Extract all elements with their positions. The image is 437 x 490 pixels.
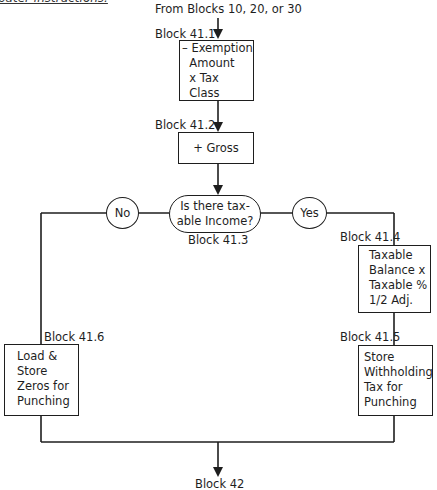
block-41-5-label: Block 41.5 xyxy=(340,331,400,344)
no-branch-connector: No xyxy=(106,197,139,229)
block-41-2-box: + Gross xyxy=(178,132,254,164)
block-41-2-text: + Gross xyxy=(193,141,239,155)
block-41-6-text: Load & Store Zeros for Punching xyxy=(17,349,70,409)
block-41-6-box: Load & Store Zeros for Punching xyxy=(4,344,79,416)
block-41-2-label: Block 41.2 xyxy=(155,119,215,132)
block-41-4-label: Block 41.4 xyxy=(340,231,400,244)
block-41-4-text: Taxable Balance x Taxable % 1/2 Adj. xyxy=(369,248,427,308)
block-41-1-box: – Exemption Amount x Tax Class xyxy=(179,40,254,101)
block-41-5-text: Store Withholding Tax for Punching xyxy=(364,350,433,410)
entry-label: From Blocks 10, 20, or 30 xyxy=(155,3,302,16)
header-fragment: pater instructions. xyxy=(0,0,108,5)
flowchart: pater instructions. From Blocks 10, 20, … xyxy=(0,0,437,490)
yes-branch-connector: Yes xyxy=(292,197,327,229)
block-41-6-label: Block 41.6 xyxy=(44,331,104,344)
block-41-1-text: – Exemption Amount x Tax Class xyxy=(182,41,253,101)
exit-label: Block 42 xyxy=(195,478,244,490)
block-41-3-decision: Is there tax- able Income? xyxy=(169,195,261,233)
block-41-3-label: Block 41.3 xyxy=(188,234,248,247)
block-41-4-box: Taxable Balance x Taxable % 1/2 Adj. xyxy=(358,245,431,313)
block-41-5-box: Store Withholding Tax for Punching xyxy=(358,345,433,416)
